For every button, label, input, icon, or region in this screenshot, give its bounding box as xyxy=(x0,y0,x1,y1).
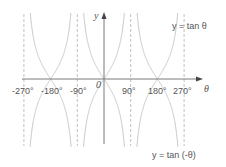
tan-graph: y θ 0 -270° -180° -90° 90° 180° 270° y =… xyxy=(0,0,226,167)
tick-label-180: 180° xyxy=(148,86,167,96)
x-axis-label: θ xyxy=(204,83,209,94)
tick-label-neg180: -180° xyxy=(41,86,63,96)
x-axis-arrow-icon xyxy=(196,77,203,82)
tick-label-neg90: -90° xyxy=(70,86,87,96)
curve-label-tan-text: y = tan θ xyxy=(172,21,207,31)
y-axis-label: y xyxy=(93,10,99,21)
curve-tan-neg xyxy=(137,13,178,147)
origin-label: 0 xyxy=(96,79,101,90)
tick-label-270: 270° xyxy=(173,86,192,96)
curve-tan-neg xyxy=(30,13,71,147)
curve-label-tan: y = tan θ xyxy=(172,21,207,31)
curve-tan xyxy=(30,13,71,147)
curve-label-tan-neg: y = tan (-θ) xyxy=(152,150,196,160)
curve-label-tan-neg-text: y = tan (-θ) xyxy=(152,150,196,160)
tick-label-90: 90° xyxy=(122,86,136,96)
tick-label-neg270: -270° xyxy=(12,86,34,96)
y-axis-arrow-icon xyxy=(102,12,107,19)
curve-tan xyxy=(137,13,178,147)
